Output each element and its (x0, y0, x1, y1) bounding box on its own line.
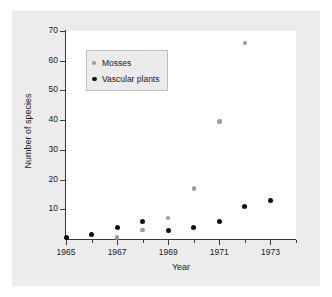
data-point-vascular-plants-1970 (191, 225, 196, 230)
data-point-vascular-plants-1968 (140, 219, 145, 224)
y-tick-50 (60, 90, 65, 91)
x-tick-1965 (66, 240, 67, 245)
chart-figure: 10203040506070 19651967196919711973 Numb… (0, 0, 332, 297)
legend-marker-mosses-icon (92, 61, 96, 65)
y-tick-60 (60, 61, 65, 62)
legend-label-mosses: Mosses (102, 57, 131, 69)
data-point-vascular-plants-1965 (64, 235, 69, 240)
x-tick-minor-1972 (245, 240, 246, 243)
y-tick-10 (60, 209, 65, 210)
data-point-mosses-1970 (192, 186, 197, 191)
x-tick-minor-1968 (143, 240, 144, 243)
data-point-vascular-plants-1971 (217, 219, 222, 224)
x-axis-line (65, 239, 296, 240)
y-tick-70 (60, 31, 65, 32)
data-point-mosses-1971 (217, 119, 222, 124)
x-tick-minor-1970 (194, 240, 195, 243)
x-tick-label-1971: 1971 (199, 247, 239, 257)
x-tick-label-1967: 1967 (97, 247, 137, 257)
x-tick-minor-1974 (296, 240, 297, 243)
y-axis-title: Number of species (23, 71, 33, 191)
legend-label-vascular-plants: Vascular plants (102, 73, 159, 85)
x-tick-label-1973: 1973 (250, 247, 290, 257)
legend-marker-vascular-plants-icon (92, 77, 97, 82)
data-point-mosses-1967 (115, 235, 120, 240)
data-point-vascular-plants-1973 (268, 198, 273, 203)
x-tick-label-1969: 1969 (148, 247, 188, 257)
x-tick-1969 (168, 240, 169, 245)
chart-legend: Mosses Vascular plants (86, 50, 168, 91)
x-tick-label-1965: 1965 (46, 247, 86, 257)
x-axis-title: Year (66, 262, 296, 272)
y-tick-label-10: 10 (18, 204, 58, 213)
y-tick-30 (60, 150, 65, 151)
legend-item-mosses: Mosses (92, 57, 168, 69)
y-axis-line (65, 30, 66, 240)
y-tick-40 (60, 120, 65, 121)
y-tick-20 (60, 180, 65, 181)
x-tick-1971 (219, 240, 220, 245)
data-point-vascular-plants-1969 (166, 228, 171, 233)
x-tick-1973 (270, 240, 271, 245)
legend-item-vascular-plants: Vascular plants (92, 73, 168, 85)
y-tick-label-70: 70 (18, 26, 58, 35)
y-tick-label-60: 60 (18, 56, 58, 65)
x-tick-1967 (117, 240, 118, 245)
x-tick-minor-1966 (92, 240, 93, 243)
data-point-vascular-plants-1967 (115, 225, 120, 230)
